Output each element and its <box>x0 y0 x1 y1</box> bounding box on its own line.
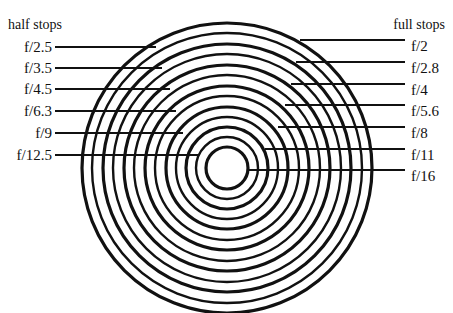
full-stops-heading: full stops <box>393 17 445 32</box>
aperture-ring-f-2_8 <box>103 44 351 292</box>
full-stop-label: f/11 <box>411 147 435 163</box>
aperture-ring-f-9 <box>176 117 278 219</box>
half-stop-label: f/2.5 <box>24 39 52 55</box>
aperture-ring-f-4_5 <box>134 75 320 261</box>
full-stop-label: f/8 <box>411 125 428 141</box>
half-stops-heading: half stops <box>8 17 62 32</box>
half-stop-label: f/12.5 <box>17 147 52 163</box>
half-stop-label: f/4.5 <box>24 81 52 97</box>
aperture-ring-f-8 <box>166 107 288 229</box>
half-stop-label: f/9 <box>35 125 52 141</box>
full-stop-label: f/5.6 <box>411 103 439 119</box>
full-stop-label: f/2.8 <box>411 60 439 76</box>
aperture-ring-f-2_5 <box>92 33 362 303</box>
full-stop-label: f/4 <box>411 82 428 98</box>
concentric-aperture-rings <box>82 23 372 313</box>
full-stop-label: f/2 <box>411 38 428 54</box>
half-stop-label: f/6.3 <box>24 103 52 119</box>
half-stop-label: f/3.5 <box>24 60 52 76</box>
aperture-rings-diagram: half stops full stops f/2.5 f/3.5 f/4.5 … <box>0 0 453 313</box>
full-stop-label: f/16 <box>411 168 436 184</box>
aperture-ring-f-16 <box>206 147 248 189</box>
aperture-ring-f-11 <box>186 127 268 209</box>
full-stop-leader-lines <box>247 40 405 170</box>
